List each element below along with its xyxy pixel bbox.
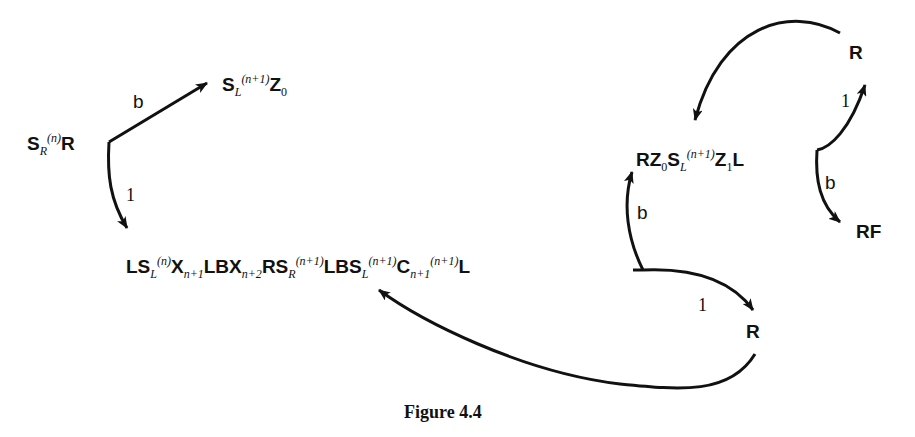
edge-label-branch-to-r-top: 1: [841, 92, 850, 110]
node-main-p4: RS: [262, 256, 288, 277]
node-main-p4-sup: (n+1): [296, 254, 324, 268]
node-right-mid-p2-sub: L: [680, 160, 687, 174]
node-main-p1-sub: L: [150, 267, 157, 281]
diagram-edges: [0, 0, 915, 437]
edge-label-start-to-top-left: b: [133, 92, 144, 111]
node-right-mid-p4: L: [732, 149, 744, 170]
node-main-p7: L: [458, 256, 470, 277]
node-start-sub: R: [40, 144, 47, 158]
node-main-p3-sub: n+2: [242, 267, 262, 281]
edge-label-branch-to-rf: b: [825, 173, 836, 192]
node-main-p3: LBX: [204, 256, 242, 277]
node-main-p1: LS: [126, 256, 150, 277]
edge-start-to-top-left: [109, 83, 207, 142]
edge-r-top-to-right-mid: [695, 21, 840, 120]
node-main-p2-sub: n+1: [184, 267, 204, 281]
figure-caption: Figure 4.4: [404, 402, 482, 423]
node-top-left: SL(n+1)Z0: [222, 75, 287, 94]
node-top-left-sup: (n+1): [241, 72, 269, 86]
node-right-mid: RZ0SL(n+1)Z1L: [636, 150, 744, 169]
node-start-base: S: [27, 133, 40, 154]
node-top-left-tail-sub: 0: [281, 85, 287, 99]
node-main-p1-sup: (n): [157, 254, 171, 268]
node-main-p6-sup: (n+1): [430, 254, 458, 268]
node-right-mid-p2-sup: (n+1): [687, 147, 715, 161]
edge-label-main-to-right-mid: b: [637, 203, 648, 222]
node-r-top: R: [849, 43, 863, 62]
node-right-mid-p1: RZ: [636, 149, 661, 170]
node-top-left-tail: Z: [269, 74, 281, 95]
edge-label-start-to-main: 1: [126, 186, 135, 204]
node-main-p2: X: [171, 256, 184, 277]
edge-start-to-main: [108, 142, 127, 228]
figure-canvas: SR(n)R SL(n+1)Z0 LSL(n)Xn+1LBXn+2RSR(n+1…: [0, 0, 915, 437]
node-main-p5-sup: (n+1): [368, 254, 396, 268]
node-right-mid-p3: Z: [715, 149, 727, 170]
node-right-mid-p2: S: [667, 149, 680, 170]
node-start: SR(n)R: [27, 134, 75, 153]
node-main-p6: C: [397, 256, 411, 277]
node-top-left-base: S: [222, 74, 235, 95]
node-top-left-sub: L: [235, 85, 242, 99]
node-main-p6-sub: n+1: [410, 267, 430, 281]
node-start-tail: R: [61, 133, 75, 154]
node-rf: RF: [856, 222, 881, 241]
node-main: LSL(n)Xn+1LBXn+2RSR(n+1)LBSL(n+1)Cn+1(n+…: [126, 257, 470, 276]
edge-label-main-to-r-bottom: 1: [698, 296, 707, 314]
node-r-bottom: R: [746, 322, 760, 341]
node-start-sup: (n): [47, 131, 61, 145]
node-main-p5-sub: L: [362, 267, 369, 281]
node-main-p4-sub: R: [288, 267, 295, 281]
node-main-p5: LBS: [324, 256, 362, 277]
